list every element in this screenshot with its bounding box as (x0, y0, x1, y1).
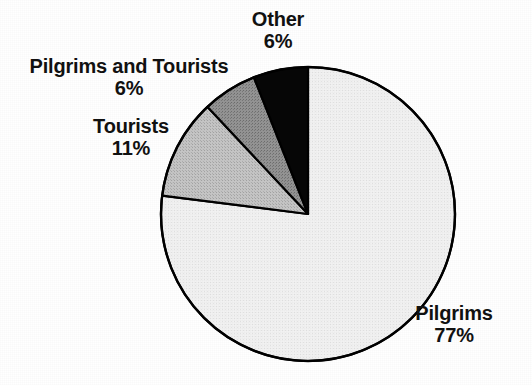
pie-label-other: Other 6% (214, 8, 342, 53)
pie-label-pilgrims-and-tourists-name: Pilgrims and Tourists (16, 55, 242, 77)
pie-label-other-name: Other (214, 8, 342, 30)
pie-label-tourists: Tourists 11% (64, 115, 198, 160)
pie-label-tourists-name: Tourists (64, 115, 198, 137)
pie-chart-figure: Other 6% Pilgrims and Tourists 6% Touris… (0, 0, 532, 385)
pie-label-pilgrims-and-tourists: Pilgrims and Tourists 6% (16, 55, 242, 100)
pie-label-pilgrims-and-tourists-value: 6% (16, 77, 242, 99)
pie-label-other-value: 6% (214, 30, 342, 52)
pie-label-tourists-value: 11% (64, 137, 198, 159)
pie-label-pilgrims-name: Pilgrims (392, 302, 516, 324)
pie-label-pilgrims-value: 77% (392, 324, 516, 346)
pie-label-pilgrims: Pilgrims 77% (392, 302, 516, 347)
